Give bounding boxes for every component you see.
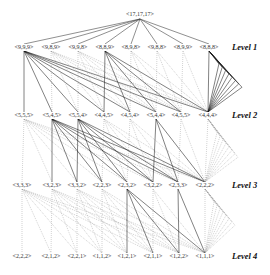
solid-edge xyxy=(105,51,130,112)
lattice-node: <5,4,4> xyxy=(146,112,167,119)
lattice-node: <4,4,4> xyxy=(198,112,219,119)
root-edge xyxy=(140,19,209,44)
fan-edge xyxy=(205,189,223,253)
fan-edge xyxy=(205,119,235,182)
lattice-node: <4,4,5> xyxy=(94,112,115,119)
lattice-node: <8,9,8> xyxy=(121,44,142,51)
dotted-edge xyxy=(52,189,179,253)
solid-edge xyxy=(127,189,153,253)
lattice-node: <4,5,4> xyxy=(120,112,141,119)
dotted-edge xyxy=(51,51,104,112)
dotted-edge xyxy=(183,51,208,112)
root-edge xyxy=(131,19,140,44)
fan-edge xyxy=(205,189,235,253)
lattice-node: <3,3,3> xyxy=(12,182,33,189)
level-label: Level 3 xyxy=(232,180,257,190)
lattice-node: <9,8,8> xyxy=(147,44,168,51)
dotted-edge xyxy=(102,189,205,253)
lattice-node: <2,2,3> xyxy=(92,182,113,189)
dotted-edge xyxy=(22,119,24,182)
dotted-edge xyxy=(22,189,153,253)
dotted-edge xyxy=(131,51,156,112)
fan-edge xyxy=(205,189,232,253)
edges-layer xyxy=(22,19,242,253)
lattice-node: <2,3,3> xyxy=(168,182,189,189)
lattice-node: <2,1,2> xyxy=(41,253,62,260)
level-label: Level 2 xyxy=(232,110,257,120)
dotted-edge xyxy=(181,119,205,182)
dotted-edge xyxy=(52,189,77,253)
lattice-node: <8,8,9> xyxy=(95,44,116,51)
lattice-node: <9,9,9> xyxy=(14,44,35,51)
lattice-node: <8,8,8> xyxy=(199,44,220,51)
lattice-node: <3,3,2> xyxy=(67,182,88,189)
dotted-edge xyxy=(51,51,156,112)
solid-edge xyxy=(24,51,104,112)
solid-edge xyxy=(78,119,178,182)
fan-edge xyxy=(205,119,232,182)
level-label: Level 1 xyxy=(232,42,257,52)
root-node: <17,17,17> xyxy=(125,11,155,18)
root-edge xyxy=(78,19,140,44)
lattice-node: <1,1,1> xyxy=(195,253,216,260)
dotted-edge xyxy=(102,189,127,253)
dotted-edge xyxy=(22,189,179,253)
lattice-node: <5,4,5> xyxy=(42,112,63,119)
fan-edge xyxy=(205,189,229,253)
fan-edge xyxy=(205,189,226,253)
dotted-edge xyxy=(22,189,51,253)
lattice-node: <1,2,1> xyxy=(117,253,138,260)
dotted-edge xyxy=(24,119,52,182)
dotted-edge xyxy=(51,51,208,112)
root-edge xyxy=(140,19,183,44)
dotted-edge xyxy=(153,189,179,253)
lattice-node: <5,5,5> xyxy=(14,112,35,119)
root-edge xyxy=(140,19,157,44)
lattice-node: <4,5,5> xyxy=(171,112,192,119)
lattice-diagram xyxy=(0,0,270,275)
level-label: Level 4 xyxy=(232,251,257,261)
fan-edge xyxy=(205,119,238,182)
dotted-edge xyxy=(52,189,153,253)
lattice-node: <2,2,2> xyxy=(195,182,216,189)
dotted-edge xyxy=(77,189,205,253)
dotted-edge xyxy=(157,51,208,112)
solid-edge xyxy=(153,119,156,182)
lattice-node: <9,9,8> xyxy=(68,44,89,51)
lattice-node: <2,3,2> xyxy=(117,182,138,189)
solid-edge xyxy=(78,119,127,182)
dotted-edge xyxy=(77,189,179,253)
dotted-edge xyxy=(77,189,102,253)
dotted-edge xyxy=(102,189,153,253)
dotted-edge xyxy=(24,119,178,182)
lattice-node: <2,2,1> xyxy=(67,253,88,260)
solid-edge xyxy=(178,189,179,253)
solid-edge xyxy=(24,51,130,112)
fan-edge xyxy=(205,119,223,182)
lattice-node: <9,8,9> xyxy=(41,44,62,51)
lattice-node: <3,2,3> xyxy=(42,182,63,189)
dotted-edge xyxy=(51,189,52,253)
dotted-edge xyxy=(157,51,181,112)
fan-edge xyxy=(208,51,239,112)
solid-edge xyxy=(208,51,209,112)
lattice-node: <2,1,1> xyxy=(143,253,164,260)
dotted-edge xyxy=(22,189,77,253)
dotted-edge xyxy=(181,51,183,112)
lattice-node: <8,9,9> xyxy=(173,44,194,51)
lattice-node: <2,2,2> xyxy=(12,253,33,260)
dotted-edge xyxy=(78,51,104,112)
fan-edge xyxy=(205,189,217,253)
dotted-edge xyxy=(22,189,102,253)
root-edge xyxy=(51,19,140,44)
lattice-node: <1,2,2> xyxy=(169,253,190,260)
dotted-edge xyxy=(130,119,178,182)
solid-edge xyxy=(24,51,156,112)
dotted-edge xyxy=(77,189,153,253)
solid-edge xyxy=(52,119,77,182)
lattice-node: <3,2,2> xyxy=(143,182,164,189)
lattice-node: <1,1,2> xyxy=(92,253,113,260)
lattice-node: <5,5,4> xyxy=(68,112,89,119)
dotted-edge xyxy=(205,119,208,182)
fan-edge xyxy=(205,119,229,182)
